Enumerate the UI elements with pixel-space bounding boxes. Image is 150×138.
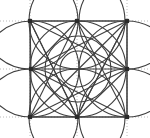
node-top-left	[28, 19, 32, 23]
node-middle-right	[125, 67, 129, 71]
node-bottom-left	[28, 115, 32, 119]
node-bottom-right	[125, 115, 129, 119]
node-top-right	[125, 19, 129, 23]
node-top-center	[75, 19, 79, 23]
node-bottom-center	[75, 115, 79, 119]
rosette-figure	[0, 0, 150, 138]
node-middle-left	[29, 67, 33, 71]
rosette-canvas	[0, 0, 150, 138]
